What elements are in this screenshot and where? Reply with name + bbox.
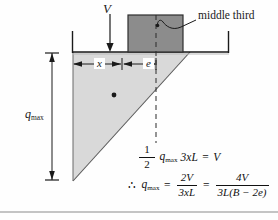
load-label-v: V <box>103 2 111 15</box>
dimension-e-label: e <box>143 58 154 69</box>
equation-1-equals: = <box>202 151 209 163</box>
middle-third-leader-dot <box>156 24 160 28</box>
equation-2-fraction-1: 2V 3xL <box>177 172 198 198</box>
equation-1-q-sub: max <box>165 156 177 164</box>
equation-1-rest: 3xL <box>181 151 198 163</box>
equation-1-denominator: 2 <box>142 159 152 171</box>
equation-block: 1 2 qmax 3xL = V ∴ qmax = 2V 3xL = 4V 3L… <box>128 142 278 204</box>
equation-2-f2-numerator: 4V <box>234 172 250 184</box>
equation-line-2: ∴ qmax = 2V 3xL = 4V 3L(B − 2e) <box>128 172 272 198</box>
qmax-label-sub: max <box>31 113 44 122</box>
equation-1-result: V <box>213 151 220 163</box>
load-arrow-head <box>106 43 113 52</box>
centroid-dot <box>112 93 117 98</box>
pressure-distribution-figure: V middle third x e qmax 1 2 qmax 3xL = V… <box>0 0 278 220</box>
dimension-x-label: x <box>94 58 105 69</box>
qmax-arrow-top <box>49 53 55 62</box>
equation-1-numerator: 1 <box>142 144 152 156</box>
equation-2-fraction-2: 4V 3L(B − 2e) <box>216 172 269 198</box>
equation-2-equals-2: = <box>203 179 210 191</box>
equation-line-1: 1 2 qmax 3xL = V <box>136 144 222 170</box>
equation-2-equals-1: = <box>164 179 171 191</box>
equation-1-fraction-half: 1 2 <box>139 144 155 170</box>
qmax-label: qmax <box>25 108 44 121</box>
equation-1-q-term: qmax <box>160 150 178 164</box>
equation-2-f1-numerator: 2V <box>179 172 195 184</box>
equation-2-f2-denominator: 3L(B − 2e) <box>216 187 269 199</box>
equation-2-f1-denominator: 3xL <box>177 187 198 199</box>
equation-2-q-sub: max <box>147 184 159 192</box>
middle-third-label: middle third <box>198 10 255 22</box>
equation-2-q-term: qmax <box>142 178 160 192</box>
qmax-arrow-bottom <box>49 171 55 180</box>
equation-2-therefore: ∴ <box>128 178 136 193</box>
